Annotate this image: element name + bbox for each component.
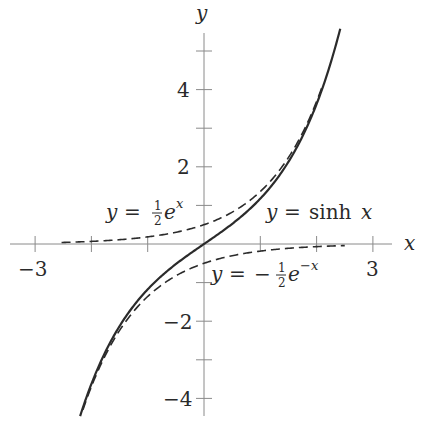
x-tick-label-3: 3 bbox=[366, 257, 379, 281]
y-tick-label-neg2: −2 bbox=[163, 310, 192, 334]
annotation-sinh-x: y = sinh x bbox=[265, 200, 372, 224]
annotation-lhs: y bbox=[210, 262, 223, 286]
curve-sinh-x bbox=[80, 29, 340, 416]
x-axis-label: x bbox=[404, 231, 415, 255]
sinh-chart: x y −3 3 4 2 −2 −4 y = 1 2 e x y = sinh … bbox=[0, 0, 433, 428]
fraction-denominator: 2 bbox=[278, 276, 286, 290]
annotation-exponent: −x bbox=[300, 258, 319, 273]
annotation-half-exp-x: y = 1 2 e x bbox=[105, 196, 184, 228]
annotation-base: e bbox=[164, 200, 176, 224]
annotation-exponent: x bbox=[176, 196, 184, 211]
fraction-numerator: 1 bbox=[154, 199, 162, 213]
annotation-neg-half-exp-neg-x: y = − 1 2 e −x bbox=[210, 258, 319, 290]
x-tick-label-neg3: −3 bbox=[18, 257, 47, 281]
annotation-base: e bbox=[288, 262, 300, 286]
annotation-equals: = bbox=[229, 262, 246, 286]
y-tick-label-neg4: −4 bbox=[163, 387, 192, 411]
y-tick-label-2: 2 bbox=[177, 155, 190, 179]
fraction-denominator: 2 bbox=[154, 214, 162, 228]
annotation-minus: − bbox=[254, 262, 271, 286]
annotation-function: sinh bbox=[309, 200, 352, 224]
fraction-numerator: 1 bbox=[278, 261, 286, 275]
annotation-equals: = bbox=[284, 200, 301, 224]
annotation-equals: = bbox=[124, 200, 141, 224]
y-axis-label: y bbox=[195, 1, 208, 25]
annotation-lhs: y bbox=[265, 200, 278, 224]
annotation-argument: x bbox=[361, 200, 372, 224]
annotation-lhs: y bbox=[105, 200, 118, 224]
y-tick-label-4: 4 bbox=[177, 78, 190, 102]
